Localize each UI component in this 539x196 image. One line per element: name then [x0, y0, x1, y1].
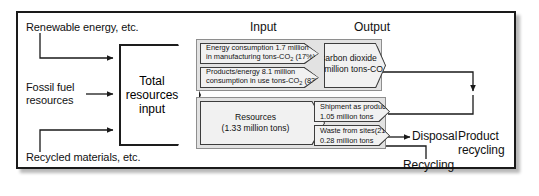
resources-box: Resources (1.33 million tons): [200, 101, 325, 145]
energy-consumption-line1: Energy consumption 1.7 million: [206, 43, 309, 52]
carbon-dioxide-line1: Carbon dioxide: [319, 53, 377, 64]
label-renewable-energy: Renewable energy, etc.: [26, 21, 139, 34]
products-energy-box: Products/energy 8.1 million consumption …: [200, 67, 319, 88]
shipment-line1: Shipment as products (79%): [320, 102, 413, 111]
resources-line2: (1.33 million tons): [222, 123, 290, 134]
label-disposal: Disposal: [412, 130, 457, 143]
shipment-as-products-box: Shipment as products (79%) 1.05 million …: [314, 101, 390, 122]
column-header-input: Input: [250, 21, 277, 34]
carbon-dioxide-box: Carbon dioxide (9.8 million tons-CO2): [324, 43, 386, 88]
label-recycling: Recycling: [403, 159, 454, 172]
diagram-frame: Renewable energy, etc. Fossil fuel resou…: [16, 11, 516, 169]
energy-consumption-line2: in manufacturing tons-CO2 (17%): [206, 52, 315, 65]
label-fossil-fuel-resources: Fossil fuel resources: [26, 81, 74, 106]
resources-line1: Resources: [235, 112, 276, 123]
column-header-output: Output: [354, 21, 390, 34]
waste-from-sites-box: Waste from sites (21%) 0.28 million tons: [314, 125, 390, 146]
waste-line2: 0.28 million tons: [320, 136, 374, 145]
total-resources-input-node: Total resources input: [119, 44, 201, 146]
total-resources-input-label: Total resources input: [126, 74, 195, 116]
waste-line1: Waste from sites (21%): [320, 126, 374, 135]
products-energy-line2: consumption in use tons-CO2 (83%): [206, 76, 324, 89]
energy-consumption-box: Energy consumption 1.7 million in manufa…: [200, 43, 319, 64]
products-energy-line1: Products/energy 8.1 million: [206, 67, 295, 76]
shipment-line2: 1.05 million tons: [320, 112, 373, 121]
label-product-recycling: Product recycling: [458, 130, 504, 157]
label-recycled-materials: Recycled materials, etc.: [26, 151, 140, 164]
